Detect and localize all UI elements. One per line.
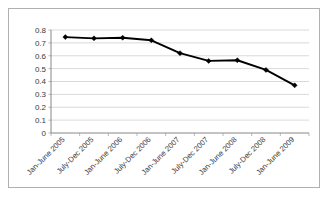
y-tick-label: 0.1 <box>35 116 47 125</box>
line-chart: 0.80.70.60.50.40.30.20.10 Jan-June 2005J… <box>0 0 336 200</box>
data-point <box>235 58 240 63</box>
y-tick-label: 0.5 <box>35 65 47 74</box>
data-point <box>63 35 68 40</box>
gridlines <box>51 30 309 120</box>
y-tick-label: 0.6 <box>35 52 47 61</box>
data-point <box>120 35 125 40</box>
y-tick-label: 0.3 <box>35 90 47 99</box>
data-point <box>206 58 211 63</box>
y-tick-label: 0.7 <box>35 39 47 48</box>
y-tick-label: 0.4 <box>35 77 47 86</box>
x-axis-tick-labels: Jan-June 2005July-Dec 2005Jan-June 2006J… <box>25 135 296 177</box>
y-tick-label: 0.8 <box>35 26 47 35</box>
y-axis-tick-labels: 0.80.70.60.50.40.30.20.10 <box>35 26 47 138</box>
y-tick-label: 0.2 <box>35 103 47 112</box>
data-series-line <box>65 37 294 85</box>
data-point <box>92 36 97 41</box>
y-tick-label: 0 <box>42 129 47 138</box>
